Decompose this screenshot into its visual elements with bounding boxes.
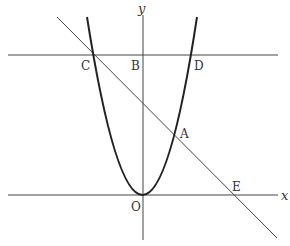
point-D-label: D — [194, 59, 204, 73]
diagram-canvas: y x O C B D A E — [0, 0, 290, 246]
point-E-label: E — [232, 180, 241, 194]
point-A-label: A — [179, 127, 189, 141]
parabola — [87, 17, 197, 195]
origin-label: O — [131, 200, 141, 214]
point-C-label: C — [81, 59, 90, 73]
point-B-label: B — [131, 59, 140, 73]
line-CAE — [57, 17, 277, 238]
y-axis-label: y — [137, 1, 146, 16]
x-axis-label: x — [281, 188, 289, 203]
